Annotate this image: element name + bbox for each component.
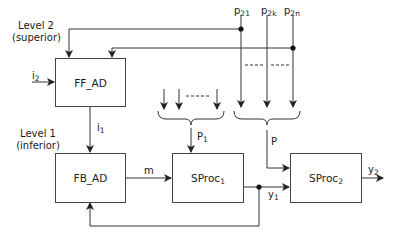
block-sproc1-label: SProc1 [191, 172, 225, 184]
signal-p1: P1 [197, 131, 208, 143]
junction-y1 [256, 184, 261, 189]
level2-title: Level 2 [12, 20, 60, 32]
block-ff-ad-label: FF_AD [74, 77, 107, 89]
junction-p2n [290, 45, 295, 50]
signal-m: m [144, 165, 154, 177]
level1-label: Level 1 (inferior) [14, 128, 62, 152]
brace-right [234, 111, 300, 125]
signal-p21: p21 [234, 5, 250, 17]
level2-label: Level 2 (superior) [12, 20, 60, 44]
level1-subtitle: (inferior) [14, 140, 62, 152]
signal-p2n: p2n [284, 5, 300, 17]
block-fb-ad-label: FB_AD [74, 172, 108, 184]
junction-p21 [238, 26, 243, 31]
line-p2n-to-ffad [112, 48, 293, 57]
brace-left [158, 111, 224, 125]
level1-title: Level 1 [14, 128, 62, 140]
block-sproc2: SProc2 [290, 153, 362, 203]
signal-p: P [271, 136, 277, 148]
signal-y2: y2 [368, 164, 379, 176]
block-fb-ad: FB_AD [55, 153, 126, 203]
block-ff-ad: FF_AD [55, 58, 126, 107]
block-sproc2-label: SProc2 [309, 172, 343, 184]
line-p21-to-ffad [69, 29, 241, 57]
signal-p2k: p2k [261, 5, 276, 17]
signal-y1: y1 [268, 189, 279, 201]
block-sproc1: SProc1 [172, 153, 244, 203]
signal-i2: i2 [32, 70, 40, 82]
signal-i1: i1 [97, 122, 105, 134]
level2-subtitle: (superior) [12, 32, 60, 44]
